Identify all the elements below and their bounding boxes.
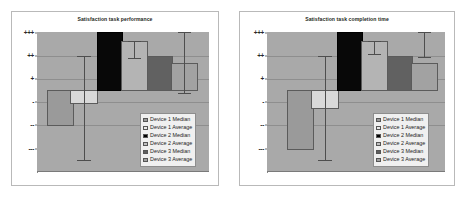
legend-swatch-icon: [143, 142, 148, 147]
legend-swatch-icon: [376, 134, 381, 139]
y-axis-labels: +++ ++ + - -- ---: [12, 32, 37, 172]
legend-swatch-icon: [376, 150, 381, 155]
error-bar-cap-bottom: [318, 160, 332, 161]
y-tick-label: ---: [259, 146, 265, 152]
bar-device-3-average: [411, 63, 438, 91]
error-bar-stem: [374, 41, 375, 55]
error-bar-stem: [184, 32, 185, 94]
legend-label: Device 1 Median: [150, 117, 190, 122]
error-bar-cap-top: [128, 41, 141, 42]
error-bar-stem: [84, 56, 85, 161]
error-bar-cap-bottom: [418, 57, 431, 58]
bar-device-2-median: [97, 32, 123, 91]
legend-swatch-icon: [143, 150, 148, 155]
legend-swatch-icon: [376, 158, 381, 163]
error-bar-cap-top: [77, 56, 91, 57]
chart-title: Satisfaction task completion time: [240, 16, 454, 22]
legend-label: Device 2 Average: [383, 141, 425, 146]
legend-label: Device 3 Average: [383, 157, 425, 162]
y-axis-labels: +++ ++ + - -- ---: [240, 32, 267, 172]
bar-device-1-median: [287, 90, 314, 150]
legend-swatch-icon: [143, 158, 148, 163]
error-bar-cap-bottom: [178, 93, 191, 94]
legend-label: Device 1 Average: [383, 125, 425, 130]
chart-panel-satisfaction-task-completion-time: Satisfaction task completion time +++ ++…: [239, 11, 455, 186]
error-bar-device-1-average: [77, 56, 91, 161]
bar-device-3-median: [147, 56, 173, 91]
legend-item-device-2-average[interactable]: Device 2 Average: [143, 140, 192, 148]
error-bar-cap-top: [318, 56, 332, 57]
error-bar-cap-top: [178, 32, 191, 33]
legend-label: Device 1 Average: [150, 125, 192, 130]
legend-swatch-icon: [376, 142, 381, 147]
chart-title: Satisfaction task performance: [12, 16, 218, 22]
legend-label: Device 3 Average: [150, 157, 192, 162]
legend-label: Device 3 Median: [150, 149, 190, 154]
chart-panel-satisfaction-task-performance: Satisfaction task performance +++ ++ + -…: [11, 11, 219, 186]
error-bar-device-2-average: [368, 41, 381, 55]
legend-item-device-3-median[interactable]: Device 3 Median: [143, 148, 192, 156]
error-bar-cap-top: [418, 32, 431, 33]
legend-label: Device 2 Median: [150, 133, 190, 138]
error-bar-stem: [325, 56, 326, 161]
y-tick-label: +: [261, 76, 264, 82]
legend: Device 1 Median Device 1 Average Device …: [140, 113, 196, 167]
legend-item-device-1-median[interactable]: Device 1 Median: [376, 116, 425, 124]
legend-swatch-icon: [376, 126, 381, 131]
y-tick-label: --: [260, 122, 264, 128]
y-tick-label: +++: [254, 30, 264, 36]
legend: Device 1 Median Device 1 Average Device …: [373, 113, 429, 167]
legend-swatch-icon: [143, 134, 148, 139]
y-tick-label: -: [262, 99, 264, 105]
figure-root: Satisfaction task performance +++ ++ + -…: [0, 0, 462, 202]
error-bar-cap-bottom: [77, 160, 91, 161]
error-bar-stem: [134, 41, 135, 59]
bar-device-2-median: [337, 32, 363, 91]
legend-item-device-1-average[interactable]: Device 1 Average: [143, 124, 192, 132]
legend-item-device-3-average[interactable]: Device 3 Average: [143, 156, 192, 164]
error-bar-device-1-average: [318, 56, 332, 161]
x-axis-line: [37, 171, 209, 172]
legend-swatch-icon: [376, 118, 381, 123]
legend-label: Device 1 Median: [383, 117, 423, 122]
legend-item-device-1-average[interactable]: Device 1 Average: [376, 124, 425, 132]
error-bar-cap-bottom: [368, 54, 381, 55]
legend-label: Device 2 Average: [150, 141, 192, 146]
y-tick-label: +++: [24, 30, 34, 36]
y-tick-label: ++: [27, 53, 34, 59]
error-bar-device-3-average: [178, 32, 191, 94]
error-bar-device-2-average: [128, 41, 141, 59]
legend-item-device-1-median[interactable]: Device 1 Median: [143, 116, 192, 124]
legend-item-device-2-median[interactable]: Device 2 Median: [376, 132, 425, 140]
y-tick-label: ---: [29, 146, 35, 152]
y-tick-label: --: [30, 122, 34, 128]
error-bar-device-3-average: [418, 32, 431, 58]
error-bar-stem: [424, 32, 425, 58]
error-bar-cap-top: [368, 41, 381, 42]
x-axis-line: [267, 171, 445, 172]
legend-swatch-icon: [143, 126, 148, 131]
legend-label: Device 3 Median: [383, 149, 423, 154]
legend-item-device-2-median[interactable]: Device 2 Median: [143, 132, 192, 140]
y-tick-label: +: [31, 76, 34, 82]
legend-label: Device 2 Median: [383, 133, 423, 138]
legend-item-device-3-average[interactable]: Device 3 Average: [376, 156, 425, 164]
legend-item-device-2-average[interactable]: Device 2 Average: [376, 140, 425, 148]
legend-swatch-icon: [143, 118, 148, 123]
legend-item-device-3-median[interactable]: Device 3 Median: [376, 148, 425, 156]
y-tick-label: -: [32, 99, 34, 105]
bar-device-3-median: [387, 56, 413, 91]
error-bar-cap-bottom: [128, 58, 141, 59]
y-tick-label: ++: [257, 53, 264, 59]
